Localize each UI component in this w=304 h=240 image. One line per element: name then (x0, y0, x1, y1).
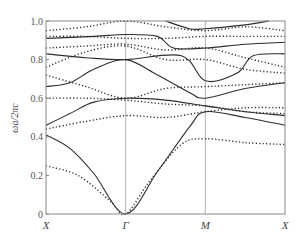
x-axis-labels: XΓMX (42, 219, 290, 231)
y-axis-label: ωa/2πc (9, 103, 20, 133)
x-label-2: M (200, 219, 211, 231)
band-solid-3 (46, 60, 285, 99)
band-dotted-1 (46, 139, 285, 215)
band-curves (46, 21, 285, 215)
band-solid-4 (46, 54, 285, 82)
x-label-3: X (281, 219, 290, 231)
y-tick-label: 1.0 (31, 16, 44, 27)
y-tick-label: 0.8 (31, 54, 44, 65)
band-solid-5 (46, 34, 285, 49)
x-label-0: X (42, 219, 51, 231)
band-structure-chart: 00.20.40.60.81.0 XΓMX ωa/2πc (0, 0, 304, 240)
y-tick-label: 0 (38, 209, 43, 220)
x-label-1: Γ (122, 219, 130, 231)
y-tick-label: 0.4 (31, 131, 44, 142)
band-dotted-8 (46, 21, 285, 31)
band-dotted-4 (46, 75, 285, 98)
band-solid-1 (46, 111, 285, 214)
y-tick-label: 0.2 (31, 170, 44, 181)
y-tick-label: 0.6 (31, 93, 44, 104)
